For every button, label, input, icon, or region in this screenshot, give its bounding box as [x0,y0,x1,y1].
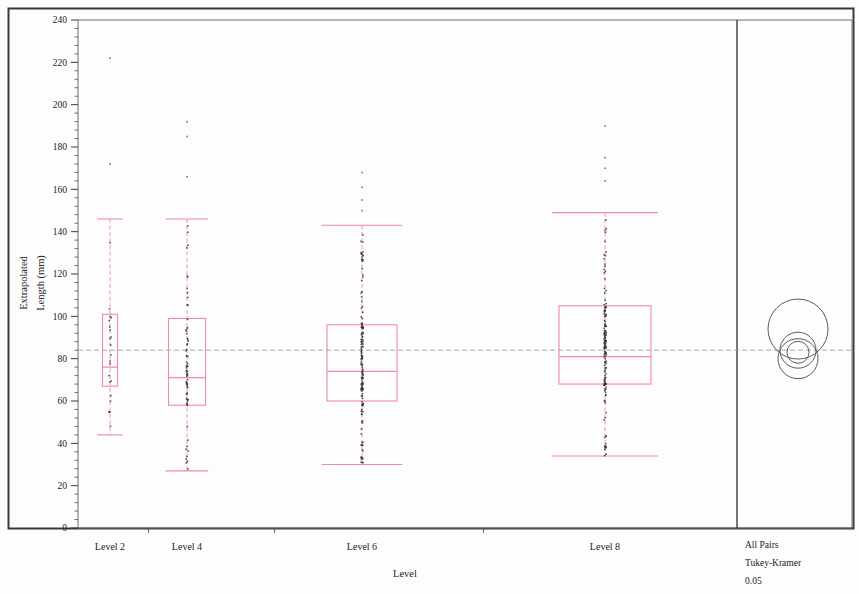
y-tick-label: 100 [53,312,68,322]
outlier-point [361,210,363,212]
outlier-point [361,199,363,201]
outlier-point [186,136,188,138]
outlier-point [186,121,188,123]
figure-root: 020406080100120140160180200220240 Level … [0,0,859,594]
oneway-boxplot-chart: 020406080100120140160180200220240 Level … [0,0,859,594]
category-labels: Level 2Level 4Level 6Level 8 [95,528,620,552]
box-plots [97,57,658,470]
plot-frame [78,20,852,528]
outlier-point [186,176,188,178]
x-axis-title: Level [393,568,417,579]
y-tick-label: 120 [53,269,68,279]
page-border [9,9,854,529]
y-tick-label: 200 [53,100,68,110]
y-tick-label: 0 [62,523,67,533]
y-tick-label: 160 [53,185,68,195]
y-tick-label: 180 [53,142,68,152]
y-axis-title-line2: Length (mm) [35,255,47,311]
y-tick-label: 20 [58,481,68,491]
box-plot-level-2 [97,57,123,434]
category-label-level-2: Level 2 [95,541,125,552]
category-label-level-8: Level 8 [590,541,620,552]
outlier-point [604,125,606,127]
outlier-point [604,157,606,159]
category-label-level-4: Level 4 [172,541,202,552]
y-tick-label: 140 [53,227,68,237]
data-points [108,242,112,427]
legend-all-pairs: All Pairs [745,540,779,550]
outlier-point [361,172,363,174]
y-tick-label: 40 [58,439,68,449]
y-axis-title-line1: Extrapolated [18,255,29,309]
outlier-point [109,57,111,59]
category-label-level-6: Level 6 [347,541,377,552]
outlier-point [604,167,606,169]
box-plot-level-8 [552,125,658,456]
data-points [360,234,364,463]
y-tick-label: 60 [58,396,68,406]
y-tick-label: 220 [53,58,68,68]
outlier-point [109,163,111,165]
y-axis: 020406080100120140160180200220240 [53,15,78,533]
outlier-point [361,187,363,189]
legend-method: Tukey-Kramer [745,558,802,568]
y-tick-label: 80 [58,354,68,364]
comparison-circle-level-6[interactable] [787,341,809,363]
legend-alpha: 0.05 [745,576,762,586]
outlier-point [604,180,606,182]
comparison-circles [768,299,828,379]
y-tick-label: 240 [53,15,68,25]
box-plot-level-4 [166,121,209,471]
box-plot-level-6 [322,172,403,465]
